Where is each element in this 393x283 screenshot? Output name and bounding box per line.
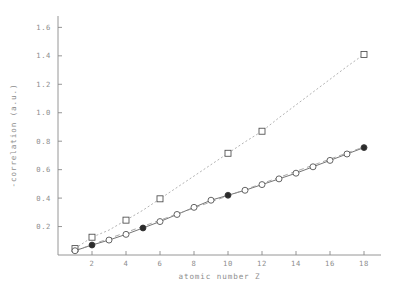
data-marker-square	[259, 128, 265, 134]
chart-root: 246810121416180.20.40.60.81.01.21.41.6at…	[0, 0, 393, 283]
x-tick-label: 4	[124, 259, 129, 268]
data-marker-filled	[225, 193, 230, 198]
data-marker-circle	[344, 151, 350, 157]
data-marker-circle	[72, 248, 78, 254]
data-marker-square	[89, 234, 95, 240]
y-axis-title: -correlation (a.u.)	[9, 84, 18, 188]
x-tick-label: 12	[257, 259, 267, 268]
x-tick-label: 14	[291, 259, 301, 268]
x-tick-label: 8	[192, 259, 197, 268]
y-tick-label: 1.4	[36, 51, 51, 60]
y-tick-label: 1.0	[36, 108, 51, 117]
x-tick-label: 2	[90, 259, 95, 268]
y-tick-label: 0.8	[36, 137, 51, 146]
y-tick-label: 1.6	[36, 23, 51, 32]
data-marker-circle	[327, 157, 333, 163]
data-marker-circle	[191, 204, 197, 210]
data-marker-circle	[276, 176, 282, 182]
data-marker-filled	[140, 225, 145, 230]
data-marker-square	[123, 217, 129, 223]
data-marker-square	[157, 196, 163, 202]
data-marker-circle	[293, 170, 299, 176]
data-marker-circle	[242, 187, 248, 193]
data-marker-square	[361, 51, 367, 57]
data-marker-filled	[89, 242, 94, 247]
y-tick-label: 0.2	[36, 222, 51, 231]
data-marker-circle	[174, 211, 180, 217]
y-tick-label: 0.4	[36, 194, 51, 203]
data-marker-circle	[208, 197, 214, 203]
data-marker-circle	[123, 231, 129, 237]
y-tick-label: 1.2	[36, 80, 51, 89]
y-tick-label: 0.6	[36, 165, 51, 174]
correlation-vs-atomic-number-chart: 246810121416180.20.40.60.81.01.21.41.6at…	[0, 0, 393, 283]
data-marker-filled	[361, 145, 366, 150]
data-marker-circle	[157, 219, 163, 225]
series-path-dashed-reference-series	[75, 147, 364, 251]
x-tick-label: 10	[223, 259, 233, 268]
x-tick-label: 16	[325, 259, 335, 268]
x-axis-title: atomic number Z	[178, 272, 260, 281]
data-marker-circle	[310, 164, 316, 170]
x-tick-label: 18	[359, 259, 369, 268]
data-marker-circle	[106, 237, 112, 243]
x-tick-label: 6	[158, 259, 163, 268]
series-path-dotted-upper-series	[75, 54, 364, 248]
data-marker-circle	[259, 182, 265, 188]
data-marker-square	[225, 150, 231, 156]
